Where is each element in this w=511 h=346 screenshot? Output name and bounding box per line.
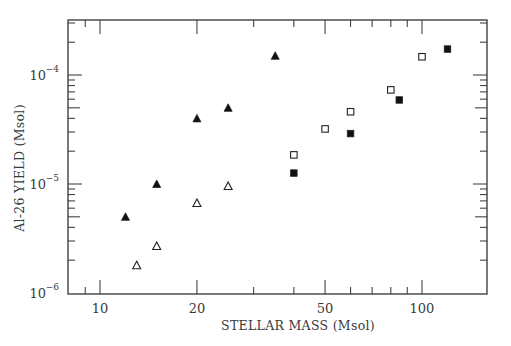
x-tick-label: 100 xyxy=(410,301,435,316)
open-square-marker xyxy=(419,54,426,61)
axis-ticks xyxy=(68,20,487,294)
open-square-marker xyxy=(322,126,329,133)
open-square-marker xyxy=(347,109,354,116)
open-triangle-marker xyxy=(193,199,201,207)
x-tick-label: 20 xyxy=(189,301,206,316)
data-points xyxy=(121,46,450,269)
y-tick-label-base: 10 xyxy=(29,177,46,192)
y-tick-label-exponent: −4 xyxy=(46,64,60,74)
y-tick-label-exponent: −6 xyxy=(46,282,60,292)
filled-square-marker xyxy=(396,97,403,104)
al26-yield-chart: 102050100 10−610−510−4 STELLAR MASS (Mso… xyxy=(0,0,511,346)
y-tick-labels: 10−610−510−4 xyxy=(29,64,59,301)
filled-triangle-marker xyxy=(271,52,279,60)
y-tick-label-exponent: −5 xyxy=(46,173,60,183)
filled-square-marker xyxy=(347,130,354,137)
y-tick-label-base: 10 xyxy=(29,68,46,83)
x-tick-label: 50 xyxy=(317,301,334,316)
open-triangle-marker xyxy=(153,242,161,250)
x-tick-label: 10 xyxy=(92,301,109,316)
open-square-marker xyxy=(388,87,395,94)
open-square-marker xyxy=(291,152,298,159)
filled-triangle-marker xyxy=(224,104,232,112)
y-axis-title: Al-26 YIELD (Msol) xyxy=(12,104,27,233)
open-triangle-marker xyxy=(224,182,232,190)
filled-square-marker xyxy=(291,170,298,177)
x-tick-labels: 102050100 xyxy=(92,301,435,316)
filled-square-marker xyxy=(444,46,451,53)
open-triangle-marker xyxy=(133,261,141,269)
x-axis-title: STELLAR MASS (Msol) xyxy=(221,318,375,333)
plot-frame xyxy=(68,20,487,294)
filled-triangle-marker xyxy=(193,114,201,122)
filled-triangle-marker xyxy=(121,213,129,221)
y-tick-label-base: 10 xyxy=(29,286,46,301)
filled-triangle-marker xyxy=(153,180,161,188)
